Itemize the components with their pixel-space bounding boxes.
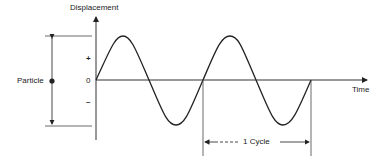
x-axis-label: Time	[352, 85, 369, 94]
wave-diagram: Displacement Time + 0 – Particle 1 Cycle	[0, 0, 387, 164]
wave-graphic	[0, 0, 387, 164]
zero-label: 0	[86, 76, 90, 85]
particle-label: Particle	[17, 76, 44, 85]
minus-label: –	[86, 97, 90, 106]
particle-dot	[49, 78, 54, 83]
cycle-label: 1 Cycle	[243, 137, 270, 146]
plus-label: +	[86, 54, 91, 63]
y-axis-label: Displacement	[70, 3, 118, 12]
